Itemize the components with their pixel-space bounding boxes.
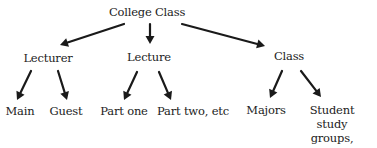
arrow-shaft (159, 72, 168, 93)
arrow-college-class-to-class (182, 24, 265, 48)
arrowhead-icon (256, 40, 265, 49)
node-class: Class (274, 49, 304, 63)
node-lecturer: Lecturer (23, 51, 72, 65)
arrow-lecturer-to-guest (58, 71, 69, 100)
node-main: Main (6, 104, 35, 118)
arrow-shaft (20, 71, 31, 93)
tree-diagram: College Class Lecturer Lecture Class Mai… (0, 0, 377, 148)
node-part-one: Part one (100, 104, 147, 118)
arrow-lecture-to-part-two (159, 72, 172, 100)
arrow-class-to-student-study-groups (301, 71, 321, 97)
arrow-shaft (273, 71, 282, 91)
arrow-shaft (58, 71, 65, 92)
arrow-class-to-majors (269, 71, 282, 98)
arrow-college-class-to-lecturer (60, 24, 124, 47)
arrow-shaft (68, 24, 124, 43)
arrow-college-class-to-lecture (146, 24, 155, 44)
arrowhead-icon (60, 91, 69, 100)
node-student-study-groups: Student study groups, etc. (310, 103, 355, 148)
node-lecture: Lecture (127, 50, 171, 64)
node-majors: Majors (246, 103, 285, 117)
arrow-shaft (301, 71, 316, 91)
arrow-lecture-to-part-one (123, 72, 137, 100)
arrow-lecturer-to-main (16, 71, 31, 100)
node-part-two: Part two, etc (157, 104, 229, 118)
node-guest: Guest (50, 104, 83, 118)
arrow-shaft (127, 72, 137, 93)
arrowhead-icon (146, 36, 155, 44)
node-college-class: College Class (109, 5, 185, 19)
arrow-shaft (182, 24, 257, 44)
